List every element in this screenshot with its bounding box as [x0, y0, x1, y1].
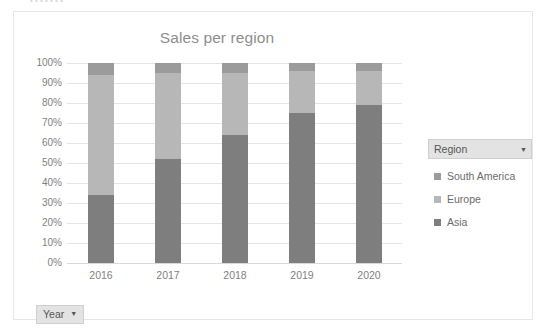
gridline [67, 263, 402, 264]
clipped-row-above-chart: • • • • • • • [0, 0, 547, 10]
bar-segment-south-america[interactable] [222, 63, 248, 73]
chevron-down-icon[interactable]: ▼ [70, 308, 77, 320]
legend-item-asia: Asia [428, 216, 532, 228]
x-axis-tick-label: 2017 [138, 269, 198, 281]
bar-segment-asia[interactable] [88, 195, 114, 263]
y-axis-tick-label: 100% [22, 58, 62, 68]
legend-items: South AmericaEuropeAsia [428, 170, 532, 228]
y-axis-tick-label: 0% [22, 258, 62, 268]
y-axis-tick-label: 40% [22, 178, 62, 188]
bar-segment-south-america[interactable] [155, 63, 181, 73]
axis-field-button-year[interactable]: Year ▼ [36, 305, 84, 324]
bar-segment-europe[interactable] [155, 73, 181, 159]
legend-item-south-america: South America [428, 170, 532, 182]
y-axis-tick-label: 10% [22, 238, 62, 248]
y-axis-tick-label: 20% [22, 218, 62, 228]
legend-swatch-icon [434, 196, 441, 203]
bar-2019[interactable] [289, 63, 315, 263]
y-axis-tick-label: 70% [22, 118, 62, 128]
ghost-text-left: • • • • • • • [30, 0, 63, 5]
bar-segment-asia[interactable] [222, 135, 248, 263]
bar-2020[interactable] [356, 63, 382, 263]
legend-swatch-icon [434, 219, 441, 226]
bar-segment-asia[interactable] [155, 159, 181, 263]
y-axis-tick-label: 90% [22, 78, 62, 88]
bar-2018[interactable] [222, 63, 248, 263]
legend-item-label: Europe [447, 193, 481, 205]
legend-item-label: South America [447, 170, 515, 182]
bar-segment-asia[interactable] [356, 105, 382, 263]
y-axis-tick-label: 80% [22, 98, 62, 108]
y-axis-tick-label: 30% [22, 198, 62, 208]
bar-2016[interactable] [88, 63, 114, 263]
pivot-chart-frame[interactable]: Sales per region 0%10%20%30%40%50%60%70%… [13, 11, 533, 320]
chart-title: Sales per region [14, 29, 420, 47]
x-axis-tick-label: 2018 [205, 269, 265, 281]
bar-segment-europe[interactable] [289, 71, 315, 113]
bar-segment-south-america[interactable] [88, 63, 114, 75]
legend-field-button-label: Region [434, 143, 467, 155]
axis-field-button-label: Year [43, 308, 64, 320]
bar-segment-europe[interactable] [222, 73, 248, 135]
legend-item-label: Asia [447, 216, 467, 228]
x-axis-tick-label: 2020 [339, 269, 399, 281]
plot-area[interactable]: 0%10%20%30%40%50%60%70%80%90%100%2016201… [67, 63, 402, 263]
legend-swatch-icon [434, 173, 441, 180]
legend-field-panel: Region ▼ South AmericaEuropeAsia [428, 139, 532, 228]
x-axis-tick-label: 2016 [71, 269, 131, 281]
bar-segment-asia[interactable] [289, 113, 315, 263]
bar-segment-south-america[interactable] [356, 63, 382, 71]
bar-segment-europe[interactable] [356, 71, 382, 105]
x-axis-tick-label: 2019 [272, 269, 332, 281]
bar-2017[interactable] [155, 63, 181, 263]
chevron-down-icon[interactable]: ▼ [520, 146, 527, 153]
legend-field-button-region[interactable]: Region ▼ [428, 139, 532, 159]
y-axis-tick-label: 60% [22, 138, 62, 148]
bar-segment-south-america[interactable] [289, 63, 315, 71]
bar-segment-europe[interactable] [88, 75, 114, 195]
y-axis-tick-label: 50% [22, 158, 62, 168]
legend-item-europe: Europe [428, 193, 532, 205]
